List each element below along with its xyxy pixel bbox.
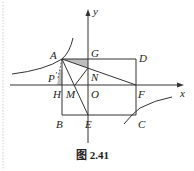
label-point-A: A	[49, 49, 57, 61]
segment-AF	[62, 59, 136, 85]
hyperbola-branch-left	[12, 38, 73, 74]
geometry-figure: y x A G D P ′ N H M O F B E C 图 2.41	[0, 0, 194, 171]
label-point-D: D	[138, 52, 147, 64]
figure-caption: 图 2.41	[76, 149, 109, 161]
label-point-G: G	[91, 47, 99, 59]
label-point-N: N	[90, 71, 99, 83]
label-point-H: H	[52, 88, 62, 100]
label-y-axis: y	[92, 5, 98, 17]
segment-AE	[62, 59, 88, 115]
hyperbola-branch-right	[124, 97, 172, 124]
label-point-C: C	[138, 118, 146, 130]
label-x-axis: x	[179, 87, 185, 99]
label-point-M: M	[65, 88, 76, 100]
label-point-F: F	[137, 88, 145, 100]
y-axis-arrow-icon	[86, 9, 91, 16]
label-point-O: O	[91, 88, 99, 100]
segment-MN	[75, 68, 88, 85]
label-point-B: B	[56, 118, 63, 130]
label-point-E: E	[84, 118, 92, 130]
rectangle-ADCB	[62, 59, 136, 115]
label-point-P-prime: ′	[55, 70, 58, 80]
label-point-P: P	[47, 72, 55, 84]
